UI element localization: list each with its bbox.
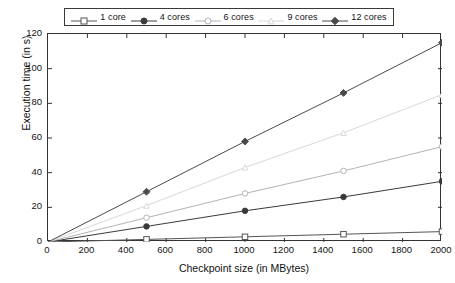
legend-marker-icon	[258, 12, 284, 22]
data-point-marker	[242, 234, 248, 240]
series-6-cores	[48, 144, 442, 242]
data-point-marker	[144, 203, 150, 208]
x-tick-label: 800	[197, 245, 213, 255]
data-point-marker	[341, 130, 347, 135]
data-point-marker	[332, 17, 339, 24]
data-point-marker	[242, 191, 248, 197]
plot-area	[47, 33, 441, 241]
y-tick-label: 20	[0, 201, 42, 211]
data-point-marker	[242, 138, 249, 145]
data-point-marker	[144, 237, 150, 242]
legend-marker-icon	[195, 12, 221, 22]
plot-canvas	[48, 34, 442, 242]
data-point-marker	[439, 144, 442, 150]
data-point-marker	[341, 168, 347, 174]
legend-label: 1 core	[100, 12, 126, 22]
data-point-marker	[144, 215, 150, 221]
data-point-marker	[439, 92, 442, 97]
chart-legend: 1 core4 cores6 cores9 cores12 cores	[64, 8, 394, 26]
legend-marker-icon	[71, 12, 97, 22]
data-point-marker	[205, 18, 211, 24]
data-point-marker	[143, 188, 150, 195]
data-point-marker	[439, 179, 442, 185]
data-point-marker	[242, 165, 248, 170]
legend-marker-icon	[131, 12, 157, 22]
y-tick-label: 40	[0, 167, 42, 177]
x-tick-label: 600	[157, 245, 173, 255]
data-point-marker	[144, 224, 150, 230]
x-tick-label: 1400	[312, 245, 333, 255]
data-point-marker	[341, 194, 347, 200]
x-tick-label: 200	[78, 245, 94, 255]
data-point-marker	[340, 90, 347, 97]
legend-entry-6-cores[interactable]: 6 cores	[195, 12, 254, 22]
data-point-marker	[439, 229, 442, 235]
legend-marker-icon	[322, 12, 348, 22]
legend-label: 4 cores	[160, 12, 190, 22]
series-4-cores	[48, 179, 442, 242]
x-tick-label: 1000	[233, 245, 254, 255]
series-1-core	[48, 229, 442, 242]
x-tick-label: 0	[44, 245, 49, 255]
data-point-marker	[81, 18, 87, 24]
legend-entry-12-cores[interactable]: 12 cores	[322, 12, 386, 22]
series-9-cores	[48, 92, 442, 242]
x-tick-label: 1600	[352, 245, 373, 255]
data-point-marker	[439, 39, 442, 46]
chart-figure: 1 core4 cores6 cores9 cores12 cores 0204…	[0, 0, 455, 283]
legend-label: 6 cores	[224, 12, 254, 22]
x-tick-label: 400	[118, 245, 134, 255]
y-axis-title: Execution time (in s)	[20, 13, 32, 153]
x-tick-label: 1800	[391, 245, 412, 255]
legend-label: 12 cores	[351, 12, 386, 22]
data-point-marker	[242, 208, 248, 214]
data-series-group	[48, 39, 442, 242]
legend-label: 9 cores	[287, 12, 317, 22]
legend-entry-4-cores[interactable]: 4 cores	[131, 12, 190, 22]
legend-entry-1-core[interactable]: 1 core	[71, 12, 126, 22]
legend-entry-9-cores[interactable]: 9 cores	[258, 12, 317, 22]
x-axis-title: Checkpoint size (in MBytes)	[47, 262, 441, 274]
data-point-marker	[141, 18, 147, 24]
x-tick-label: 1200	[273, 245, 294, 255]
x-tick-label: 2000	[430, 245, 451, 255]
y-tick-label: 0	[0, 236, 42, 246]
data-point-marker	[341, 231, 347, 237]
